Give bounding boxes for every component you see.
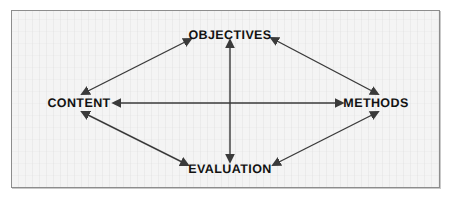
connector-evaluation-methods	[279, 115, 372, 162]
diagram-canvas: OBJECTIVES CONTENT METHODS EVALUATION	[0, 0, 458, 200]
node-label-content: CONTENT	[47, 96, 110, 110]
node-label-evaluation: EVALUATION	[188, 162, 271, 176]
node-label-methods: METHODS	[343, 96, 408, 110]
connector-objectives-methods	[277, 41, 372, 91]
connector-content-objectives	[88, 42, 185, 91]
node-label-objectives: OBJECTIVES	[188, 28, 271, 42]
connector-content-evaluation	[88, 115, 182, 162]
